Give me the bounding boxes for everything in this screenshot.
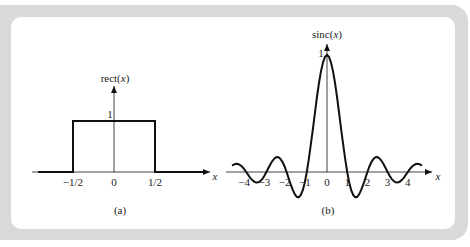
sinc-tick-neg4: −4	[238, 176, 250, 188]
rect-curve	[38, 121, 205, 172]
caption-a: (a)	[114, 204, 127, 217]
sinc-tick-2: 2	[365, 176, 371, 188]
sinc-tick-0: 0	[324, 176, 330, 188]
figure-svg: rect(x) 1 −1/2 0 1/2 x (a) sinc(x) 1 −4−…	[0, 0, 470, 247]
sinc-tick-3: 3	[385, 176, 391, 188]
rect-x-label: x	[212, 170, 218, 182]
sinc-y-label: sinc(x)	[312, 28, 342, 41]
sinc-tick-neg3: −3	[259, 176, 271, 188]
caption-b: (b)	[322, 204, 335, 217]
sinc-plot: sinc(x) 1 −4−3−2−101234 x (b)	[226, 28, 441, 217]
rect-tick-neg-half: −1/2	[63, 176, 83, 188]
sinc-tick-neg2: −2	[279, 176, 291, 188]
rect-plot: rect(x) 1 −1/2 0 1/2 x (a)	[32, 72, 218, 217]
sinc-tick-4: 4	[405, 176, 411, 188]
sinc-x-label: x	[435, 170, 441, 182]
sinc-tick-1: 1	[344, 176, 350, 188]
rect-peak-label: 1	[107, 108, 113, 120]
rect-tick-pos-half: 1/2	[148, 176, 162, 188]
rect-y-label: rect(x)	[101, 72, 130, 85]
rect-tick-zero: 0	[111, 176, 117, 188]
sinc-tick-neg1: −1	[299, 176, 311, 188]
sinc-peak-label: 1	[318, 47, 324, 59]
sinc-tick-labels: −4−3−2−101234	[238, 176, 411, 188]
